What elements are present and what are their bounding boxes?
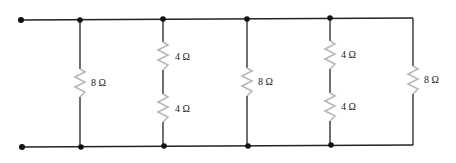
terminal-bottom-node [19, 144, 25, 150]
junction-nodes [18, 15, 334, 150]
junction-node [327, 15, 333, 21]
branch-1: 8 Ω [75, 20, 106, 147]
branch-5: 8 Ω [408, 18, 439, 145]
junction-node [245, 143, 251, 149]
branch-2: 4 Ω 4 Ω [158, 19, 190, 146]
junction-node [328, 142, 334, 148]
resistor-label: 4 Ω [175, 103, 190, 114]
junction-node [161, 143, 167, 149]
junction-node [77, 17, 83, 23]
junction-node [160, 16, 166, 22]
resistor-label: 8 Ω [258, 76, 273, 87]
circuit-diagram: 8 Ω 4 Ω 4 Ω 8 Ω 4 Ω 4 Ω 8 Ω [0, 0, 456, 163]
branch-4: 4 Ω 4 Ω [325, 18, 356, 145]
resistor-label: 4 Ω [341, 101, 356, 112]
branch-3: 8 Ω [242, 19, 273, 146]
terminal-top-node [18, 17, 24, 23]
junction-node [244, 16, 250, 22]
resistor-label: 4 Ω [175, 51, 190, 62]
junction-node [78, 144, 84, 150]
resistor-label: 8 Ω [424, 74, 439, 85]
resistor-label: 4 Ω [341, 49, 356, 60]
resistor-label: 8 Ω [91, 77, 106, 88]
